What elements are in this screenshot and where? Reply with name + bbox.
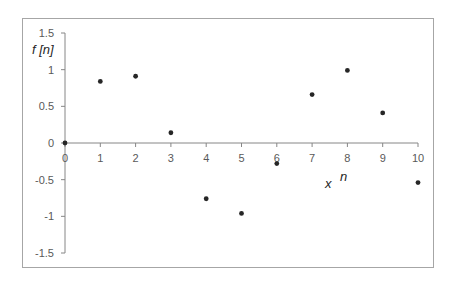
data-point bbox=[416, 180, 421, 185]
x-tick-label: 2 bbox=[133, 152, 139, 164]
x-tick-label: 0 bbox=[62, 152, 68, 164]
x-tick-label: 5 bbox=[238, 152, 244, 164]
y-tick-label: 1.5 bbox=[39, 27, 54, 39]
y-tick-label: 0.5 bbox=[39, 100, 54, 112]
y-tick-label: -1 bbox=[44, 210, 54, 222]
x-axis-ticks: 012345678910 bbox=[62, 143, 424, 164]
data-point bbox=[345, 68, 350, 73]
data-point bbox=[310, 92, 315, 97]
x-tick-label: 1 bbox=[97, 152, 103, 164]
x-tick-label: 8 bbox=[344, 152, 350, 164]
x-tick-label: 10 bbox=[412, 152, 424, 164]
data-point bbox=[274, 161, 279, 166]
x-tick-label: 9 bbox=[380, 152, 386, 164]
data-point bbox=[98, 79, 103, 84]
y-tick-label: 1 bbox=[48, 64, 54, 76]
y-tick-label: -0.5 bbox=[35, 174, 54, 186]
y-tick-label: -1.5 bbox=[35, 247, 54, 259]
x-tick-label: 4 bbox=[203, 152, 209, 164]
data-series bbox=[63, 68, 421, 216]
x-axis-title-x: x bbox=[324, 176, 332, 191]
y-axis-ticks: 1.510.50-0.5-1-1.5 bbox=[35, 27, 65, 259]
x-tick-label: 3 bbox=[168, 152, 174, 164]
data-point bbox=[133, 74, 138, 79]
x-axis-title-n: n bbox=[340, 169, 347, 184]
data-point bbox=[204, 196, 209, 201]
data-point bbox=[380, 111, 385, 116]
chart-plot: 1.510.50-0.5-1-1.5 012345678910 f [n] x … bbox=[0, 0, 456, 287]
y-axis-title: f [n] bbox=[32, 42, 54, 57]
y-tick-label: 0 bbox=[48, 137, 54, 149]
x-tick-label: 7 bbox=[309, 152, 315, 164]
data-point bbox=[239, 211, 244, 216]
data-point bbox=[169, 130, 174, 135]
data-point bbox=[63, 141, 68, 146]
